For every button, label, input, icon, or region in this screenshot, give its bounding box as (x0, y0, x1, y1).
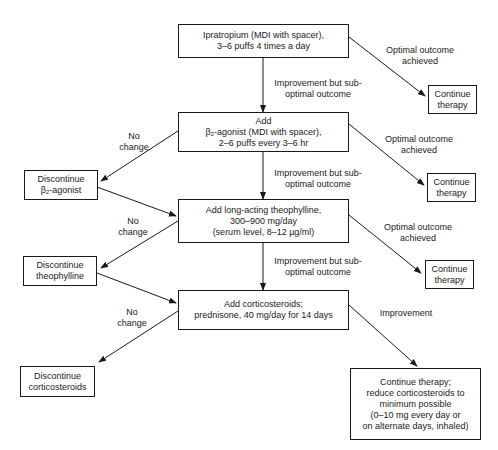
label-line: No (112, 307, 152, 318)
box-line: reduce corticosteroids to (366, 388, 464, 399)
label-line: Optimal outcome (380, 45, 460, 56)
continue-therapy-box-2: Continue therapy (427, 173, 476, 202)
label-line: change (113, 227, 153, 238)
box-line: Discontinue (37, 174, 84, 185)
label-line: Improvement (376, 308, 436, 319)
box-line: therapy (434, 275, 464, 286)
step-beta2-agonist-box: Add β₂-agonist (MDI with spacer), 2–6 pu… (178, 112, 349, 152)
box-line: therapy (437, 100, 467, 111)
label-line: No (114, 131, 154, 142)
step-theophylline-box: Add long-acting theophylline, 300–900 mg… (178, 199, 349, 243)
label-optimal-3: Optimal outcome achieved (378, 222, 458, 244)
step-line: β₂-agonist (MDI with spacer), (205, 127, 321, 138)
box-line: Continue therapy; (380, 377, 451, 388)
label-improvement: Improvement (376, 308, 436, 319)
box-line: corticosteroids (28, 382, 86, 393)
label-suboptimal-3: Improvement but sub- optimal outcome (272, 256, 364, 278)
box-line: β₂-agonist (41, 185, 82, 196)
label-line: optimal outcome (272, 89, 364, 100)
box-line: (0–10 mg every day or (370, 410, 460, 421)
discontinue-theophylline-box: Discontinue theophylline (23, 256, 97, 286)
label-line: Improvement but sub- (272, 168, 364, 179)
step-line: Add long-acting theophylline, (206, 205, 322, 216)
box-line: Continue (434, 89, 470, 100)
box-line: theophylline (36, 271, 84, 282)
step-corticosteroids-box: Add corticosteroids; prednisone, 40 mg/d… (178, 290, 349, 330)
arrow-disc2-to-step4 (97, 273, 176, 303)
continue-therapy-box-3: Continue therapy (425, 260, 474, 289)
box-line: Discontinue (36, 260, 83, 271)
label-line: Improvement but sub- (272, 256, 364, 267)
label-line: change (112, 318, 152, 329)
label-line: achieved (379, 145, 459, 156)
label-line: Improvement but sub- (272, 78, 364, 89)
step-ipratropium-box: Ipratropium (MDI with spacer), 3–6 puffs… (178, 24, 349, 58)
label-line: Optimal outcome (379, 134, 459, 145)
continue-therapy-box-1: Continue therapy (428, 85, 477, 114)
label-suboptimal-1: Improvement but sub- optimal outcome (272, 78, 364, 100)
label-line: change (114, 142, 154, 153)
label-no-change-1: No change (114, 131, 154, 153)
discontinue-corticosteroids-box: Discontinue corticosteroids (20, 366, 95, 397)
label-no-change-2: No change (113, 216, 153, 238)
label-line: optimal outcome (272, 179, 364, 190)
arrow-disc1-to-step3 (97, 187, 176, 216)
step-line: (serum level, 8–12 µg/ml) (213, 227, 315, 238)
label-line: No (113, 216, 153, 227)
step-line: prednisone, 40 mg/day for 14 days (194, 310, 333, 321)
label-line: achieved (378, 233, 458, 244)
box-line: Continue (433, 177, 469, 188)
box-line: minimum possible (379, 399, 451, 410)
label-suboptimal-2: Improvement but sub- optimal outcome (272, 168, 364, 190)
step-line: 3–6 puffs 4 times a day (217, 41, 310, 52)
discontinue-beta2-agonist-box: Discontinue β₂-agonist (24, 170, 98, 200)
label-line: achieved (380, 56, 460, 67)
label-optimal-2: Optimal outcome achieved (379, 134, 459, 156)
box-line: Continue (431, 264, 467, 275)
label-line: Optimal outcome (378, 222, 458, 233)
label-optimal-1: Optimal outcome achieved (380, 45, 460, 67)
step-line: Add corticosteroids; (224, 299, 303, 310)
continue-therapy-reduce-steroids-box: Continue therapy; reduce corticosteroids… (350, 368, 481, 440)
box-line: on alternate days, inhaled) (362, 421, 468, 432)
box-line: therapy (436, 188, 466, 199)
step-line: Ipratropium (MDI with spacer), (203, 30, 324, 41)
box-line: Discontinue (34, 371, 81, 382)
step-line: Add (255, 116, 271, 127)
label-no-change-3: No change (112, 307, 152, 329)
step-line: 300–900 mg/day (230, 216, 297, 227)
step-line: 2–6 puffs every 3–6 hr (219, 138, 308, 149)
label-line: optimal outcome (272, 267, 364, 278)
